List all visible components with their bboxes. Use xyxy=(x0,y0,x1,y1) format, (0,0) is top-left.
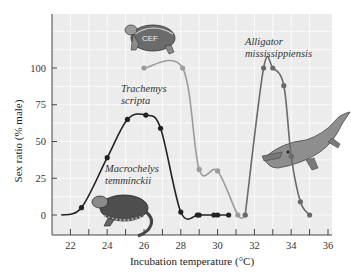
svg-text:CEF: CEF xyxy=(142,34,158,43)
y-tick-label: 100 xyxy=(30,63,46,74)
x-tick-label: 26 xyxy=(139,240,150,251)
sex-ratio-chart: CEF 0255075100 2224262830323436 Trachemy… xyxy=(0,0,351,275)
macrochelys-data-point xyxy=(178,209,183,214)
trachemys-data-point xyxy=(215,168,220,173)
trachemys-data-point xyxy=(235,212,240,217)
y-tick-label: 75 xyxy=(36,99,47,110)
macrochelys-data-point xyxy=(215,212,220,217)
alligator-data-point xyxy=(307,212,312,217)
alligator-data-point xyxy=(289,154,294,159)
x-axis-label: Incubation temperature (°C) xyxy=(130,255,254,268)
macrochelys-data-point xyxy=(125,117,130,122)
macrochelys-data-point xyxy=(197,212,202,217)
x-tick-label: 32 xyxy=(249,240,260,251)
macrochelys-data-point xyxy=(79,205,84,210)
alligator-data-point xyxy=(243,212,248,217)
x-tick-label: 22 xyxy=(65,240,76,251)
y-tick-label: 25 xyxy=(36,173,47,184)
macrochelys-data-point xyxy=(105,155,110,160)
x-tick-label: 28 xyxy=(176,240,187,251)
trachemys-data-point xyxy=(197,167,202,172)
x-tick-label: 24 xyxy=(102,240,113,251)
macrochelys-data-point xyxy=(143,112,148,117)
x-tick-label: 30 xyxy=(212,240,223,251)
macrochelys-data-point xyxy=(158,126,163,131)
y-tick-label: 0 xyxy=(41,210,46,221)
y-axis-label: Sex ratio (% male) xyxy=(12,99,25,182)
x-tick-label: 34 xyxy=(286,240,297,251)
alligator-data-point xyxy=(281,83,286,88)
trachemys-data-point xyxy=(141,65,146,70)
alligator-data-point xyxy=(270,65,275,70)
macrochelys-data-point xyxy=(226,212,231,217)
trachemys-turtle-icon: CEF xyxy=(125,25,175,54)
trachemys-data-point xyxy=(180,65,185,70)
alligator-data-point xyxy=(261,65,266,70)
alligator-data-point xyxy=(298,199,303,204)
y-tick-label: 50 xyxy=(36,136,47,147)
x-tick-label: 36 xyxy=(323,240,334,251)
